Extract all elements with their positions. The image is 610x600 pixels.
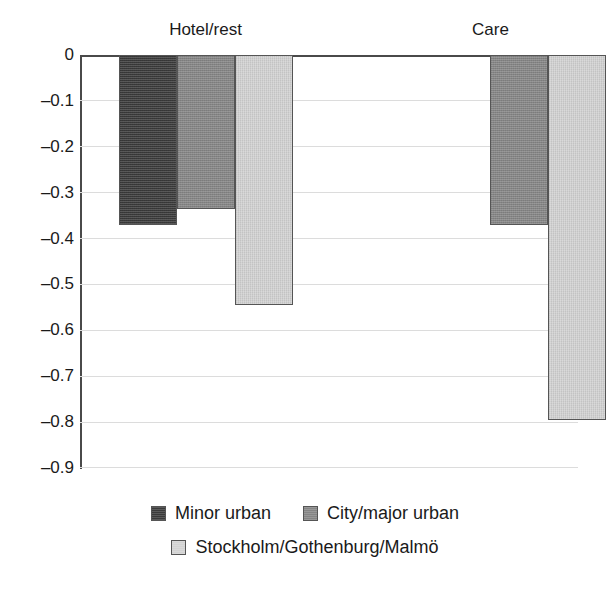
gridline--0-5	[80, 284, 578, 285]
y-tick--0-3: –0.3	[16, 184, 74, 202]
legend-label-minor-urban: Minor urban	[175, 503, 271, 523]
bar-care-city-major-urban	[490, 55, 548, 225]
gridline--0-4	[80, 238, 578, 239]
legend-swatch-icon-minor-urban	[151, 506, 166, 521]
legend-item-minor-urban: Minor urban	[151, 503, 271, 523]
gridline--0-6	[80, 330, 578, 331]
legend-item-city-major-urban: City/major urban	[303, 503, 459, 523]
gridline--0-8	[80, 422, 578, 423]
legend-swatch-icon-stockholm-gothenburg-malmo	[171, 540, 186, 555]
legend-item-stockholm-gothenburg-malmo: Stockholm/Gothenburg/Malmö	[171, 537, 438, 557]
gridline--0-9	[80, 467, 578, 468]
y-tick--0-9: –0.9	[16, 459, 74, 477]
legend-label-stockholm-gothenburg-malmo: Stockholm/Gothenburg/Malmö	[195, 537, 438, 557]
bar-care-stockholm-gothenburg-malmo	[548, 55, 606, 420]
legend-label-city-major-urban: City/major urban	[327, 503, 459, 523]
y-tick--0-7: –0.7	[16, 367, 74, 385]
gridline--0-7	[80, 376, 578, 377]
legend-row-1: Minor urban City/major urban	[0, 496, 610, 530]
y-tick--0-6: –0.6	[16, 321, 74, 339]
bar-hotel-rest-stockholm-gothenburg-malmo	[235, 55, 293, 305]
legend-row-2: Stockholm/Gothenburg/Malmö	[0, 530, 610, 564]
y-tick--0-8: –0.8	[16, 413, 74, 431]
y-tick--0-2: –0.2	[16, 138, 74, 156]
plot-area	[80, 55, 578, 468]
y-tick-0: 0	[16, 46, 74, 64]
y-tick--0-4: –0.4	[16, 230, 74, 248]
bar-hotel-rest-city-major-urban	[177, 55, 235, 209]
bar-chart-figure: Hotel/rest Care 0 –0.1 –0.2 –0.3 –0.4 –0…	[0, 0, 610, 600]
group-title-hotel-rest: Hotel/rest	[119, 20, 292, 40]
group-title-care: Care	[432, 20, 549, 40]
bar-hotel-rest-minor-urban	[119, 55, 177, 225]
legend-swatch-icon-city-major-urban	[303, 506, 318, 521]
chart-legend: Minor urban City/major urban Stockholm/G…	[0, 496, 610, 564]
y-tick--0-5: –0.5	[16, 275, 74, 293]
y-tick--0-1: –0.1	[16, 92, 74, 110]
